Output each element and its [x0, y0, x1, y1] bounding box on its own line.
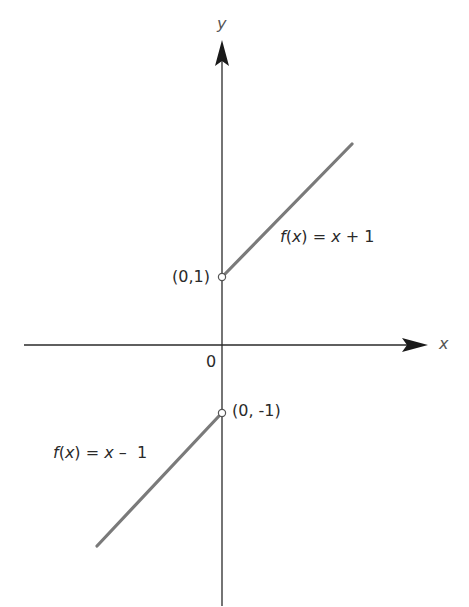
- func-var: x: [292, 227, 301, 246]
- piecewise-function-graph: [0, 0, 469, 607]
- rhs-var: x: [331, 227, 340, 246]
- func-var: x: [65, 443, 74, 462]
- x-axis-label: x: [439, 336, 448, 352]
- function-label-upper: f(x) = x + 1: [280, 229, 374, 245]
- open-point-0-minus-1: [218, 409, 225, 416]
- rhs-rest: – 1: [114, 443, 147, 462]
- rhs-rest: + 1: [341, 227, 375, 246]
- line-f-x-plus-1: [225, 144, 352, 274]
- y-axis-label: y: [217, 16, 226, 32]
- rhs-var: x: [104, 443, 113, 462]
- function-label-lower: f(x) = x – 1: [53, 445, 147, 461]
- point-label-0-minus-1: (0, -1): [232, 403, 281, 419]
- point-label-0-1: (0,1): [172, 269, 210, 285]
- line-f-x-minus-1: [97, 416, 219, 546]
- open-point-0-1: [218, 273, 225, 280]
- equals: =: [81, 443, 105, 462]
- equals: =: [308, 227, 332, 246]
- origin-label: 0: [206, 354, 216, 370]
